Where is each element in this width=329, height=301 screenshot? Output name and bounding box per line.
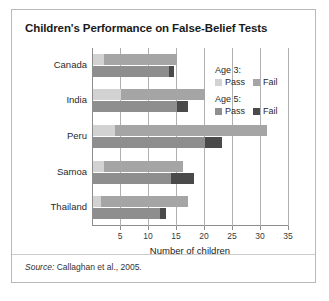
legend-swatch-icon [253, 108, 260, 115]
bar-segment [93, 208, 160, 219]
bar-segment [93, 196, 101, 207]
bar-age5 [93, 137, 222, 148]
bar-segment [115, 125, 266, 136]
chart-legend: Age 3:PassFailAge 5:PassFail [215, 65, 309, 123]
bar-segment [177, 101, 188, 112]
source-citation: Callaghan et al., 2005. [57, 262, 142, 272]
bar-segment [93, 161, 104, 172]
bar-segment [169, 66, 175, 77]
bar-segment [104, 54, 177, 65]
legend-label: Fail [263, 106, 278, 116]
bar-segment [205, 137, 222, 148]
bar-age5 [93, 101, 188, 112]
figure-card: Children's Performance on False-Belief T… [11, 9, 316, 283]
bar-segment [104, 161, 182, 172]
legend-group: Age 5:PassFail [215, 94, 309, 116]
legend-label: Pass [225, 77, 245, 87]
bar-age5 [93, 173, 194, 184]
bar-age5 [93, 66, 174, 77]
bar-segment [160, 208, 166, 219]
source-divider [12, 254, 315, 255]
category-label: India [66, 94, 87, 105]
bar-segment [93, 125, 115, 136]
legend-row: PassFail [215, 77, 309, 87]
legend-heading: Age 3: [215, 65, 309, 75]
tick-mark [204, 226, 205, 230]
x-tick-label: 20 [199, 231, 208, 241]
bar-age3 [93, 125, 267, 136]
tick-mark [232, 226, 233, 230]
source-note: Source: Callaghan et al., 2005. [25, 262, 142, 272]
category-label: Samoa [57, 166, 87, 177]
tick-mark [120, 226, 121, 230]
legend-group: Age 3:PassFail [215, 65, 309, 87]
bar-segment [93, 89, 121, 100]
bar-segment [93, 101, 177, 112]
bar-segment [93, 66, 169, 77]
legend-swatch-icon [215, 79, 222, 86]
bar-segment [121, 89, 205, 100]
x-tick-label: 10 [143, 231, 152, 241]
legend-label: Pass [225, 106, 245, 116]
bar-age3 [93, 89, 205, 100]
tick-mark [176, 226, 177, 230]
x-tick-label: 30 [255, 231, 264, 241]
page-title: Children's Performance on False-Belief T… [25, 22, 267, 34]
bar-segment [93, 173, 171, 184]
bar-age3 [93, 54, 177, 65]
bar-segment [101, 196, 188, 207]
tick-mark [148, 226, 149, 230]
category-label: Canada [54, 59, 87, 70]
category-label: Thailand [51, 201, 87, 212]
legend-row: PassFail [215, 106, 309, 116]
x-tick-label: 25 [227, 231, 236, 241]
x-tick-label: 5 [118, 231, 123, 241]
legend-label: Fail [263, 77, 278, 87]
bar-segment [93, 137, 205, 148]
tick-mark [288, 226, 289, 230]
legend-swatch-icon [253, 79, 260, 86]
bar-age3 [93, 161, 183, 172]
bar-segment [171, 173, 193, 184]
bar-segment [93, 54, 104, 65]
source-label: Source: [25, 262, 54, 272]
legend-swatch-icon [215, 108, 222, 115]
category-axis-labels: CanadaIndiaPeruSamoaThailand [12, 48, 87, 226]
x-tick-label: 35 [283, 231, 292, 241]
x-tick-label: 15 [171, 231, 180, 241]
legend-heading: Age 5: [215, 94, 309, 104]
bar-age3 [93, 196, 188, 207]
bar-age5 [93, 208, 166, 219]
tick-mark [260, 226, 261, 230]
category-label: Peru [67, 130, 87, 141]
